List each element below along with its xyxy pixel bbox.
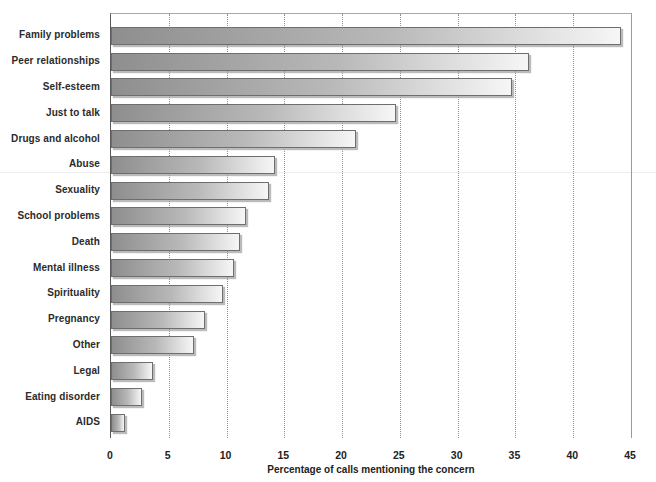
x-tick-label-30: 30 xyxy=(451,449,463,461)
bar-row xyxy=(111,100,631,126)
category-label: Pregnancy xyxy=(48,313,100,324)
bar-row xyxy=(111,178,631,204)
bar-mental-illness xyxy=(111,259,234,277)
x-tick-label-20: 20 xyxy=(335,449,347,461)
x-axis-title: Percentage of calls mentioning the conce… xyxy=(110,464,632,475)
category-label: Abuse xyxy=(69,158,100,169)
label-row: AIDS xyxy=(0,409,105,435)
category-label: Legal xyxy=(73,365,100,376)
x-tick-label-0: 0 xyxy=(107,449,113,461)
bar-row xyxy=(111,384,631,410)
label-row: Sexuality xyxy=(0,177,105,203)
label-row: Legal xyxy=(0,357,105,383)
category-label: Mental illness xyxy=(33,262,100,273)
category-label: Death xyxy=(72,236,100,247)
bar-family-problems xyxy=(111,27,621,45)
label-row: Just to talk xyxy=(0,99,105,125)
x-tick-label-45: 45 xyxy=(624,449,636,461)
category-label: Sexuality xyxy=(55,184,100,195)
bar-other xyxy=(111,336,194,354)
bar-chart-figure: Family problemsPeer relationshipsSelf-es… xyxy=(0,0,656,482)
category-label: School problems xyxy=(17,210,100,221)
label-row: Spirituality xyxy=(0,280,105,306)
label-row: Death xyxy=(0,228,105,254)
bar-aids xyxy=(111,414,125,432)
category-label-column: Family problemsPeer relationshipsSelf-es… xyxy=(0,22,105,435)
label-row: School problems xyxy=(0,203,105,229)
category-label: Eating disorder xyxy=(25,391,100,402)
category-label: Self-esteem xyxy=(43,81,100,92)
x-tick-label-15: 15 xyxy=(277,449,289,461)
bar-row xyxy=(111,410,631,436)
bar-peer-relationships xyxy=(111,53,529,71)
bar-abuse xyxy=(111,156,275,174)
bar-row xyxy=(111,23,631,49)
category-label: Other xyxy=(73,339,100,350)
bar-row xyxy=(111,307,631,333)
bar-just-to-talk xyxy=(111,104,396,122)
label-row: Mental illness xyxy=(0,254,105,280)
bar-self-esteem xyxy=(111,78,512,96)
label-row: Peer relationships xyxy=(0,48,105,74)
label-row: Drugs and alcohol xyxy=(0,125,105,151)
bar-school-problems xyxy=(111,207,246,225)
x-tick-label-5: 5 xyxy=(165,449,171,461)
bar-pregnancy xyxy=(111,311,205,329)
bar-row xyxy=(111,49,631,75)
x-tick-label-40: 40 xyxy=(566,449,578,461)
category-label: Spirituality xyxy=(47,287,100,298)
bar-row xyxy=(111,255,631,281)
bar-row xyxy=(111,75,631,101)
bar-row xyxy=(111,229,631,255)
bar-spirituality xyxy=(111,285,223,303)
category-label: Family problems xyxy=(19,29,100,40)
x-axis-tick-labels: 051015202530354045 xyxy=(0,449,656,463)
bar-row xyxy=(111,281,631,307)
bar-eating-disorder xyxy=(111,388,142,406)
bar-row xyxy=(111,204,631,230)
label-row: Pregnancy xyxy=(0,306,105,332)
label-row: Self-esteem xyxy=(0,74,105,100)
bar-row xyxy=(111,333,631,359)
plot-area xyxy=(110,13,632,438)
bar-row xyxy=(111,126,631,152)
category-label: Drugs and alcohol xyxy=(11,133,100,144)
bar-row xyxy=(111,358,631,384)
label-row: Eating disorder xyxy=(0,383,105,409)
bar-sexuality xyxy=(111,182,269,200)
category-label: Just to talk xyxy=(46,107,100,118)
bar-death xyxy=(111,233,240,251)
bar-legal xyxy=(111,362,153,380)
bars-container xyxy=(111,23,631,436)
x-tick-label-35: 35 xyxy=(509,449,521,461)
category-label: Peer relationships xyxy=(12,55,101,66)
x-tick-label-10: 10 xyxy=(220,449,232,461)
bar-row xyxy=(111,152,631,178)
label-row: Family problems xyxy=(0,22,105,48)
label-row: Abuse xyxy=(0,151,105,177)
x-tick-label-25: 25 xyxy=(393,449,405,461)
bar-drugs-and-alcohol xyxy=(111,130,356,148)
category-label: AIDS xyxy=(76,416,100,427)
label-row: Other xyxy=(0,332,105,358)
